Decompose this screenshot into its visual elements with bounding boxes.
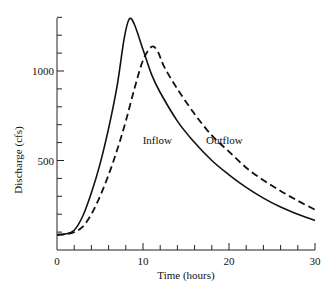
outflow-annotation: Outflow xyxy=(206,134,243,146)
y-axis-label: Discharge (cfs) xyxy=(12,126,25,194)
inflow-annotation: Inflow xyxy=(143,134,172,146)
x-tick-label: 10 xyxy=(138,255,150,267)
series-lines xyxy=(57,18,315,235)
outflow-line xyxy=(57,46,315,234)
y-tick-label: 1000 xyxy=(32,65,55,77)
x-tick-label: 20 xyxy=(224,255,236,267)
hydrograph-chart: 01020305001000 Discharge (cfs) Time (hou… xyxy=(0,0,336,300)
axes xyxy=(57,18,315,250)
y-tick-label: 500 xyxy=(38,155,55,167)
inflow-line xyxy=(57,18,315,235)
x-tick-label: 0 xyxy=(54,255,60,267)
x-axis-label: Time (hours) xyxy=(157,269,215,282)
x-tick-label: 30 xyxy=(310,255,322,267)
